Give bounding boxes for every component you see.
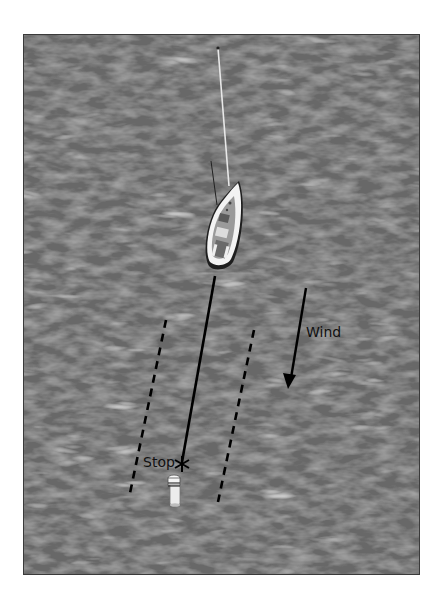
sailing-diagram: Wind Stop — [0, 0, 443, 611]
stop-label: Stop — [143, 454, 175, 470]
mast-tip-icon — [216, 46, 219, 49]
wind-label: Wind — [306, 324, 341, 340]
water-area — [23, 34, 420, 575]
buoy-icon — [168, 475, 180, 507]
